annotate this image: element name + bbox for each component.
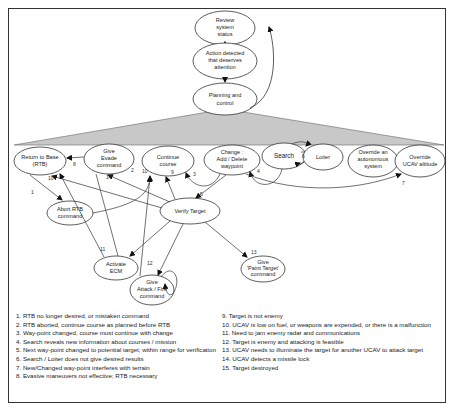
- legend-item: 3. Way-point changed, course must contin…: [16, 329, 216, 338]
- legend-item: 1. RTB no longer desired, or mistaken co…: [16, 312, 216, 321]
- svg-text:course: course: [160, 161, 177, 167]
- node-abort-rtb-command[interactable]: Abort RTB command: [47, 201, 93, 225]
- node-override-autonomous-system[interactable]: Override an autonomous system: [348, 145, 398, 177]
- svg-text:Search: Search: [274, 152, 295, 159]
- node-action-detected[interactable]: Action detected that deserves attention: [193, 43, 257, 79]
- planning-fan: [14, 112, 444, 145]
- svg-text:waypoint: waypoint: [220, 163, 244, 169]
- node-change-waypoint[interactable]: Change : Add / Delete waypoint: [204, 145, 260, 175]
- svg-text:Continue: Continue: [157, 154, 179, 160]
- legend-item: 11. Need to jam enemy radar and communic…: [222, 329, 431, 338]
- edge-label-2: 2: [131, 167, 134, 173]
- svg-text:Verify Target: Verify Target: [175, 208, 206, 214]
- node-override-ucav-altitude[interactable]: Override UCAV altitude: [395, 145, 445, 177]
- edge-label-7: 7: [402, 180, 405, 186]
- svg-text:system: system: [216, 24, 234, 30]
- edge-label-3: 3: [193, 171, 196, 177]
- legend-left: 1. RTB no longer desired, or mistaken co…: [16, 312, 216, 381]
- legend-item: 10. UCAV is low on fuel, or weapons are …: [222, 321, 431, 330]
- svg-text:attention: attention: [214, 64, 235, 70]
- edge-label-4: 4: [257, 168, 260, 174]
- legend-right: 9. Target is not enemy 10. UCAV is low o…: [222, 312, 431, 372]
- legend-item: 6. Search / Loiter does not give desired…: [16, 355, 216, 364]
- legend-item: 14. UCAV detects a missile lock: [222, 355, 431, 364]
- edge-label-12: 12: [147, 260, 153, 266]
- legend-item: 9. Target is not enemy: [222, 312, 431, 321]
- node-continue-course[interactable]: Continue course: [142, 146, 194, 176]
- edge-label-8: 8: [73, 161, 76, 167]
- legend-item: 15. Target destroyed: [222, 364, 431, 373]
- svg-text:Return to Base: Return to Base: [21, 154, 58, 160]
- legend-item: 8. Evasive maneuvers not effective; RTB …: [16, 372, 216, 381]
- legend-item: 13. UCAV needs to illuminate the target …: [222, 346, 431, 355]
- svg-text:command: command: [97, 162, 122, 168]
- node-give-paint-target-command[interactable]: Give 'Paint Target' command: [241, 256, 285, 282]
- svg-text:system: system: [364, 163, 382, 169]
- svg-text:command: command: [140, 293, 165, 299]
- svg-text:Give: Give: [146, 279, 158, 285]
- legend-item: 12. Target is enemy and attacking is fea…: [222, 338, 431, 347]
- node-give-attack-fire-command[interactable]: Give Attack / Fire command: [130, 275, 174, 305]
- legend-item: 7. New/Changed way-point interferes with…: [16, 364, 216, 373]
- svg-text:status: status: [218, 31, 233, 37]
- node-search[interactable]: Search: [262, 143, 306, 169]
- node-give-evade-command[interactable]: Give Evade command: [84, 144, 134, 174]
- svg-text:Give: Give: [103, 148, 115, 154]
- svg-text:Loiter: Loiter: [316, 154, 330, 160]
- edge-label-14: 14: [106, 174, 112, 180]
- svg-text:Activate: Activate: [106, 261, 126, 267]
- svg-text:autonomous: autonomous: [358, 156, 389, 162]
- svg-text:Planning and: Planning and: [209, 92, 242, 98]
- svg-text:(RTB): (RTB): [33, 161, 48, 167]
- svg-text:control: control: [217, 100, 234, 106]
- node-planning-and-control[interactable]: Planning and control: [193, 83, 257, 115]
- node-activate-ecm[interactable]: Activate ECM: [94, 256, 138, 280]
- svg-text:command: command: [58, 213, 83, 219]
- edge-label-10b: 10: [142, 168, 148, 174]
- legend-item: 5. Next way-point changed to potential t…: [16, 346, 216, 355]
- edge-label-5: 5: [200, 191, 203, 197]
- svg-text:UCAV altitude: UCAV altitude: [403, 161, 438, 167]
- edge-label-1: 1: [31, 189, 34, 195]
- svg-text:Override: Override: [409, 154, 430, 160]
- svg-text:command: command: [251, 271, 276, 277]
- edge-label-9: 9: [171, 169, 174, 175]
- svg-text:Override an: Override an: [358, 149, 387, 155]
- svg-text:Attack / Fire: Attack / Fire: [137, 286, 167, 292]
- node-review-system-status[interactable]: Review system status: [195, 11, 255, 45]
- svg-text:ECM: ECM: [110, 268, 123, 274]
- edge-label-13: 13: [251, 249, 257, 255]
- edge-label-11: 11: [100, 246, 105, 252]
- svg-text:that deserves: that deserves: [208, 57, 242, 63]
- edge-label-10a: 10: [48, 175, 54, 181]
- legend-item: 2. RTB aborted, continue course as plann…: [16, 321, 216, 330]
- node-loiter[interactable]: Loiter: [303, 144, 343, 170]
- svg-text:Add / Delete: Add / Delete: [217, 156, 248, 162]
- svg-text:Change :: Change :: [221, 149, 244, 155]
- legend-item: 4. Search reveals new information about …: [16, 338, 216, 347]
- edge-label-6: 6: [302, 153, 305, 159]
- node-return-to-base[interactable]: Return to Base (RTB): [14, 147, 66, 175]
- svg-text:Action detected: Action detected: [206, 50, 245, 56]
- svg-text:Evade: Evade: [101, 155, 117, 161]
- svg-text:Review: Review: [216, 17, 235, 23]
